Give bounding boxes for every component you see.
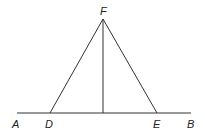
label-f: F [100,5,108,17]
segment-fd [50,19,103,113]
label-b: B [187,118,194,130]
geometry-diagram: F A D E B [0,0,205,133]
label-d: D [45,118,53,130]
label-a: A [11,118,19,130]
segment-fe [103,19,157,113]
label-e: E [153,118,161,130]
